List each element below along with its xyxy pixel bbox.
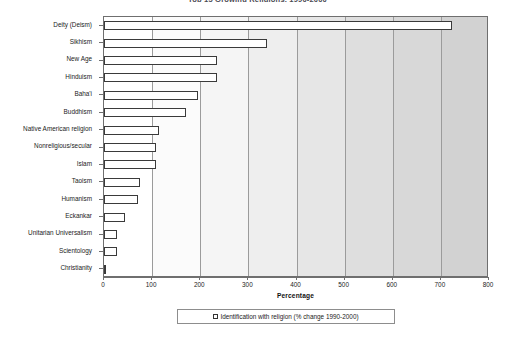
y-axis-label: New Age: [66, 56, 92, 62]
bar-row: [104, 87, 198, 104]
chart-title: Top 15 Growing Religions, 1990-2000: [0, 0, 515, 2]
y-axis-label: Islam: [77, 161, 92, 167]
x-axis-tick: [199, 277, 200, 280]
bar: [104, 39, 267, 48]
legend-swatch-icon: [213, 314, 218, 319]
bar: [104, 73, 217, 82]
legend: Identification with religion (% change 1…: [177, 309, 395, 324]
bar-row: [104, 34, 267, 51]
legend-label: Identification with religion (% change 1…: [220, 313, 358, 320]
x-axis-tick-label: 600: [377, 282, 407, 288]
bar: [104, 213, 125, 222]
y-axis-tick: [99, 60, 103, 61]
x-axis-tick-label: 200: [184, 282, 214, 288]
x-axis-tick-label: 500: [329, 282, 359, 288]
y-axis-label: Scientology: [59, 248, 92, 254]
y-axis-label: Nonreligious/secular: [34, 143, 92, 149]
x-axis-tick: [440, 277, 441, 280]
y-axis-tick: [99, 251, 103, 252]
x-axis-tick: [344, 277, 345, 280]
x-axis-tick: [392, 277, 393, 280]
x-axis-tick-label: 800: [473, 282, 503, 288]
y-axis-tick: [99, 268, 103, 269]
bar-row: [104, 191, 138, 208]
bar-row: [104, 156, 156, 173]
bar: [104, 108, 186, 117]
bar-series: [104, 17, 487, 276]
y-axis-label: Taoism: [72, 178, 92, 184]
y-axis-tick: [99, 42, 103, 43]
x-axis-tick: [296, 277, 297, 280]
bar-row: [104, 139, 156, 156]
y-axis-tick: [99, 181, 103, 182]
bar-row: [104, 104, 186, 121]
x-axis-tick-label: 300: [232, 282, 262, 288]
bar: [104, 195, 138, 204]
y-axis-tick: [99, 234, 103, 235]
y-axis-tick: [99, 164, 103, 165]
y-axis-tick: [99, 94, 103, 95]
bar: [104, 230, 117, 239]
y-axis-tick: [99, 216, 103, 217]
bar: [104, 143, 156, 152]
bar-row: [104, 52, 217, 69]
y-axis-label: Baha'i: [74, 91, 92, 97]
y-axis-label: Sikhism: [70, 39, 92, 45]
y-axis-tick: [99, 199, 103, 200]
bar-row: [104, 208, 125, 225]
y-axis-label: Humanism: [61, 196, 92, 202]
plot-area: [103, 16, 488, 277]
y-axis-tick: [99, 25, 103, 26]
y-axis-label: Buddhism: [64, 109, 92, 115]
y-axis-label: Eckankar: [65, 213, 92, 219]
x-axis-tick-label: 0: [88, 282, 118, 288]
bar: [104, 21, 452, 30]
bar-row: [104, 261, 106, 277]
y-axis-tick: [99, 147, 103, 148]
y-axis-tick: [99, 77, 103, 78]
x-axis-tick-label: 100: [136, 282, 166, 288]
bar-row: [104, 69, 217, 86]
x-axis-title: Percentage: [103, 292, 488, 299]
y-axis-tick: [99, 112, 103, 113]
y-axis-label: Christianity: [60, 265, 92, 271]
y-axis-label: Hinduism: [65, 74, 92, 80]
bar-row: [104, 121, 159, 138]
bar-row: [104, 243, 117, 260]
x-axis-tick: [488, 277, 489, 280]
x-axis-tick: [151, 277, 152, 280]
bar: [104, 126, 159, 135]
y-axis-label: Native American religion: [23, 126, 92, 132]
bar: [104, 247, 117, 256]
y-axis-label: Deity (Deism): [53, 22, 92, 28]
bar: [104, 178, 140, 187]
y-axis-label: Unitarian Universalism: [28, 230, 92, 236]
x-axis-tick: [103, 277, 104, 280]
y-axis-tick: [99, 129, 103, 130]
bar-row: [104, 226, 117, 243]
x-axis-tick-label: 400: [281, 282, 311, 288]
y-axis-category-labels: Deity (Deism)SikhismNew AgeHinduismBaha'…: [0, 16, 99, 277]
x-axis-tick-label: 700: [425, 282, 455, 288]
bar: [104, 265, 106, 274]
bar: [104, 56, 217, 65]
bar-row: [104, 174, 140, 191]
x-axis-tick: [247, 277, 248, 280]
bar-row: [104, 17, 452, 34]
bar: [104, 91, 198, 100]
bar: [104, 160, 156, 169]
